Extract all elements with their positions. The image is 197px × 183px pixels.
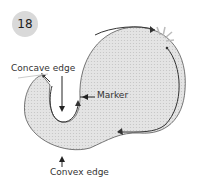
- marker-label: Marker: [97, 90, 128, 100]
- step-number: 18: [17, 17, 32, 31]
- concave-edge-label: Concave edge: [11, 63, 75, 73]
- convex-edge-label: Convex edge: [50, 167, 109, 177]
- step-number-badge: 18: [12, 11, 38, 37]
- fabric-shape: [24, 27, 185, 150]
